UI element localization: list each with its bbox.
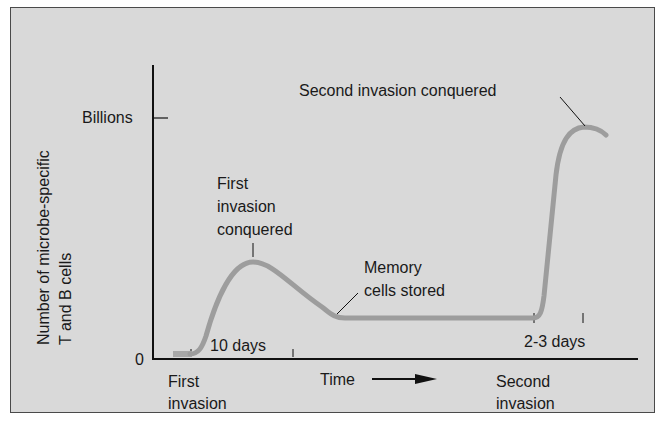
y-axis-label-line1: Number of microbe-specific (33, 150, 55, 345)
y-axis-label: Number of microbe-specific T and B cells (33, 150, 77, 345)
x-event-first-invasion-2: invasion (168, 392, 227, 415)
x-event-first-invasion-1: First (168, 370, 199, 393)
annotation-memory-1: Memory (364, 256, 422, 279)
y-tick-zero: 0 (135, 348, 144, 371)
annotation-memory-2: cells stored (364, 279, 445, 302)
time-arrow-head (415, 374, 437, 384)
y-tick-billions: Billions (82, 106, 133, 129)
annotation-first-conquered-3: conquered (217, 218, 293, 241)
annotation-first-conquered-1: First (217, 172, 248, 195)
leader-memory (337, 293, 358, 314)
x-event-second-invasion-2: invasion (496, 392, 555, 415)
annotation-second-conquered: Second invasion conquered (299, 79, 496, 102)
interval-2-3-days: 2-3 days (524, 330, 585, 353)
leader-second-conquered (560, 97, 585, 126)
x-axis-label-time: Time (320, 368, 355, 391)
y-axis-label-line2: T and B cells (55, 150, 77, 345)
interval-10-days: 10 days (210, 334, 266, 357)
annotation-first-conquered-2: invasion (217, 195, 276, 218)
x-event-second-invasion-1: Second (496, 370, 550, 393)
